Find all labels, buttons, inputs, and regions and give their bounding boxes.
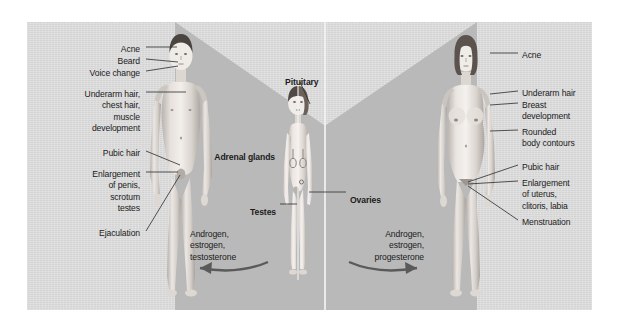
diagram-canvas: AcneBeardVoice changeUnderarm hair, ches…	[0, 0, 617, 335]
adolescent-female-figure	[428, 30, 504, 302]
male-label-0: Acne	[0, 44, 140, 55]
female-label-0: Acne	[522, 50, 541, 61]
center-label-2: Ovaries	[350, 195, 381, 206]
female-label-1: Underarm hair	[522, 88, 576, 99]
center-divider-line	[324, 22, 326, 310]
female-hormones-label: Androgen, estrogen, progesterone	[0, 229, 424, 263]
female-label-2: Breast development	[522, 100, 570, 123]
male-label-1: Beard	[0, 56, 140, 67]
center-label-0: Pituitary	[285, 77, 318, 88]
center-label-3: Testes	[0, 207, 276, 218]
female-label-6: Menstruation	[522, 217, 570, 228]
female-label-5: Enlargement of uterus, clitoris, labia	[522, 178, 570, 212]
center-label-1: Adrenal glands	[0, 152, 275, 163]
male-label-2: Voice change	[0, 68, 140, 79]
male-label-3: Underarm hair, chest hair, muscle develo…	[0, 89, 140, 135]
female-label-3: Rounded body contours	[522, 127, 575, 150]
female-label-4: Pubic hair	[522, 162, 559, 173]
